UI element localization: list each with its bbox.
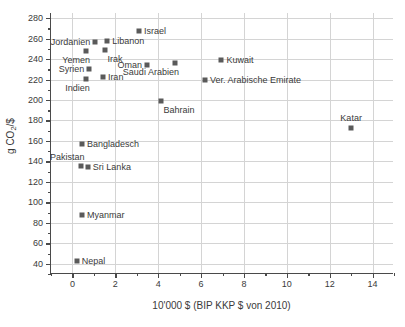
data-point bbox=[80, 212, 85, 217]
y-tick bbox=[46, 59, 51, 60]
data-point bbox=[93, 39, 98, 44]
y-tick-label: 80 bbox=[33, 218, 43, 227]
y-axis-title: g CO2/$ bbox=[5, 76, 17, 196]
x-tick-label: 8 bbox=[241, 280, 246, 289]
x-tick-minor bbox=[265, 273, 266, 276]
data-point-label: Katar bbox=[340, 114, 362, 123]
gridline-vertical bbox=[201, 13, 202, 273]
data-point-label: Syrien bbox=[59, 65, 85, 74]
x-tick-minor bbox=[351, 273, 352, 276]
y-tick bbox=[46, 18, 51, 19]
y-tick bbox=[46, 100, 51, 101]
data-point bbox=[87, 67, 92, 72]
y-tick-label: 220 bbox=[28, 75, 43, 84]
y-tick-minor bbox=[48, 233, 51, 234]
y-tick-label: 200 bbox=[28, 96, 43, 105]
y-tick bbox=[46, 182, 51, 183]
data-point-label: Myanmar bbox=[87, 210, 125, 219]
data-point-label: Yemen bbox=[62, 55, 90, 64]
y-tick-minor bbox=[48, 69, 51, 70]
y-tick-minor bbox=[48, 172, 51, 173]
scatter-chart: 406080100120140160180200220240260280 024… bbox=[0, 0, 405, 327]
gridline-horizontal bbox=[51, 223, 393, 224]
data-point bbox=[83, 76, 88, 81]
data-point bbox=[83, 48, 88, 53]
gridline-horizontal bbox=[51, 100, 393, 101]
y-tick bbox=[46, 223, 51, 224]
data-point-label: Ver. Arabische Emirate bbox=[210, 75, 301, 84]
y-axis-title-subscript: 2 bbox=[9, 126, 18, 130]
x-tick bbox=[244, 273, 245, 278]
data-point bbox=[105, 38, 110, 43]
data-point-label: Nepal bbox=[82, 256, 106, 265]
x-tick-label: 2 bbox=[113, 280, 118, 289]
y-tick-label: 140 bbox=[28, 157, 43, 166]
y-tick-label: 280 bbox=[28, 14, 43, 23]
data-point bbox=[78, 163, 83, 168]
data-point-label: Iran bbox=[108, 73, 124, 82]
y-tick-label: 180 bbox=[28, 116, 43, 125]
y-tick bbox=[46, 141, 51, 142]
y-tick-label: 160 bbox=[28, 136, 43, 145]
gridline-horizontal bbox=[51, 18, 393, 19]
data-point-label: Kuwait bbox=[226, 56, 253, 65]
data-point-label: Bahrain bbox=[163, 106, 194, 115]
x-tick-minor bbox=[51, 273, 52, 276]
y-tick bbox=[46, 161, 51, 162]
data-point-label: Pakistan bbox=[50, 152, 85, 161]
y-tick-label: 120 bbox=[28, 177, 43, 186]
x-tick bbox=[373, 273, 374, 278]
y-tick-label: 260 bbox=[28, 34, 43, 43]
x-tick-minor bbox=[137, 273, 138, 276]
gridline-horizontal bbox=[51, 182, 393, 183]
y-tick bbox=[46, 243, 51, 244]
x-tick-label: 10 bbox=[282, 280, 292, 289]
gridline-vertical bbox=[330, 13, 331, 273]
x-tick-label: 0 bbox=[70, 280, 75, 289]
x-tick-label: 4 bbox=[156, 280, 161, 289]
x-tick-label: 6 bbox=[199, 280, 204, 289]
data-point-label: Saudi Arabien bbox=[123, 68, 179, 77]
x-tick-label: 14 bbox=[368, 280, 378, 289]
x-tick-label: 12 bbox=[325, 280, 335, 289]
y-tick-minor bbox=[48, 213, 51, 214]
y-tick-label: 60 bbox=[33, 239, 43, 248]
data-point bbox=[349, 125, 354, 130]
y-tick-minor bbox=[48, 192, 51, 193]
y-tick bbox=[46, 202, 51, 203]
gridline-vertical bbox=[287, 13, 288, 273]
x-tick-minor bbox=[308, 273, 309, 276]
x-axis-title: 10'000 $ (BIP KKP $ von 2010) bbox=[50, 300, 393, 311]
data-point bbox=[85, 164, 90, 169]
y-tick-minor bbox=[48, 254, 51, 255]
data-point-label: Israel bbox=[144, 27, 166, 36]
x-tick-minor bbox=[223, 273, 224, 276]
data-point bbox=[219, 58, 224, 63]
data-point bbox=[136, 29, 141, 34]
x-tick bbox=[201, 273, 202, 278]
gridline-vertical bbox=[244, 13, 245, 273]
y-tick-minor bbox=[48, 28, 51, 29]
x-tick bbox=[115, 273, 116, 278]
data-point bbox=[172, 61, 177, 66]
y-tick-minor bbox=[48, 90, 51, 91]
y-tick bbox=[46, 264, 51, 265]
data-point-label: Bangladesch bbox=[87, 140, 139, 149]
data-point bbox=[100, 75, 105, 80]
data-point bbox=[159, 99, 164, 104]
data-point-label: Indien bbox=[65, 83, 90, 92]
data-point bbox=[80, 142, 85, 147]
data-point-label: Sri Lanka bbox=[93, 162, 131, 171]
y-tick-minor bbox=[48, 131, 51, 132]
y-tick-minor bbox=[48, 49, 51, 50]
data-point bbox=[103, 47, 108, 52]
y-tick-minor bbox=[48, 110, 51, 111]
gridline-horizontal bbox=[51, 243, 393, 244]
data-point-label: Jordanien bbox=[51, 37, 91, 46]
gridline-horizontal bbox=[51, 202, 393, 203]
data-point-label: Libanon bbox=[112, 36, 144, 45]
x-tick-minor bbox=[394, 273, 395, 276]
gridline-vertical bbox=[158, 13, 159, 273]
y-axis-title-pre: g CO bbox=[5, 131, 16, 154]
data-point bbox=[202, 77, 207, 82]
